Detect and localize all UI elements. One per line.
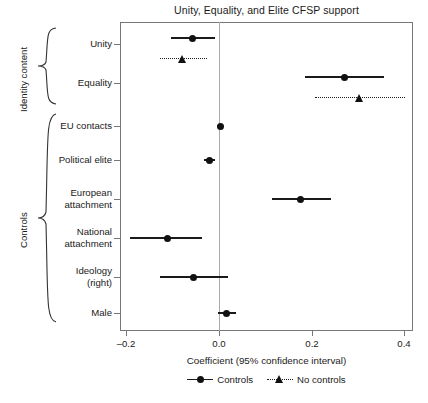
y-label-national-attachment: Nationalattachment bbox=[65, 226, 112, 249]
y-tick-european-attachment bbox=[114, 199, 120, 200]
x-tick-label-neg02: –0.2 bbox=[106, 338, 146, 349]
estimate-marker-circle bbox=[206, 157, 213, 164]
estimate-marker-circle bbox=[341, 74, 348, 81]
estimate-marker-triangle bbox=[355, 94, 363, 102]
legend-entry-no-controls: No controls bbox=[267, 374, 346, 385]
x-tick-label-02: 0.2 bbox=[292, 338, 332, 349]
estimate-marker-circle bbox=[190, 274, 197, 281]
y-tick-ideology bbox=[114, 277, 120, 278]
y-tick-national-attachment bbox=[114, 238, 120, 239]
x-tick-neg02 bbox=[126, 331, 127, 336]
estimate-marker-circle bbox=[217, 123, 224, 130]
y-label-unity: Unity bbox=[90, 38, 112, 50]
y-label-european-attachment: Europeanattachment bbox=[65, 187, 112, 210]
zero-reference-line bbox=[219, 22, 220, 331]
x-tick-label-0: 0.0 bbox=[199, 338, 239, 349]
y-tick-male bbox=[114, 313, 120, 314]
x-tick-04 bbox=[404, 331, 405, 336]
estimate-marker-triangle bbox=[178, 55, 186, 63]
y-tick-eu-contacts bbox=[114, 126, 120, 127]
x-tick-02 bbox=[312, 331, 313, 336]
y-tick-unity bbox=[114, 44, 120, 45]
legend-label-controls: Controls bbox=[217, 374, 253, 385]
estimate-marker-circle bbox=[223, 310, 230, 317]
y-label-equality: Equality bbox=[78, 77, 112, 89]
estimate-marker-circle bbox=[164, 235, 171, 242]
x-tick-0 bbox=[219, 331, 220, 336]
coefficient-plot-figure: Unity, Equality, and Elite CFSP support … bbox=[0, 0, 428, 403]
y-tick-political-elite bbox=[114, 160, 120, 161]
plot-frame bbox=[120, 22, 413, 331]
x-axis-title: Coefficient (95% confidence interval) bbox=[120, 355, 413, 366]
y-label-political-elite: Political elite bbox=[59, 154, 112, 166]
estimate-marker-circle bbox=[297, 196, 304, 203]
group-bracket-identity-content bbox=[26, 26, 62, 106]
estimate-marker-circle bbox=[189, 35, 196, 42]
group-bracket-controls bbox=[26, 112, 62, 324]
y-label-eu-contacts: EU contacts bbox=[60, 120, 112, 132]
legend-marker-circle-icon bbox=[187, 375, 213, 384]
x-tick-label-04: 0.4 bbox=[384, 338, 424, 349]
y-label-ideology: Ideology(right) bbox=[76, 265, 112, 288]
y-tick-equality bbox=[114, 83, 120, 84]
legend: Controls No controls bbox=[120, 374, 413, 385]
group-label-identity-content: Identity content bbox=[18, 47, 29, 112]
legend-entry-controls: Controls bbox=[187, 374, 253, 385]
legend-marker-triangle-icon bbox=[267, 375, 293, 384]
group-label-controls: Controls bbox=[18, 212, 29, 248]
chart-title: Unity, Equality, and Elite CFSP support bbox=[120, 4, 413, 16]
legend-label-no-controls: No controls bbox=[297, 374, 346, 385]
y-label-male: Male bbox=[91, 307, 112, 319]
